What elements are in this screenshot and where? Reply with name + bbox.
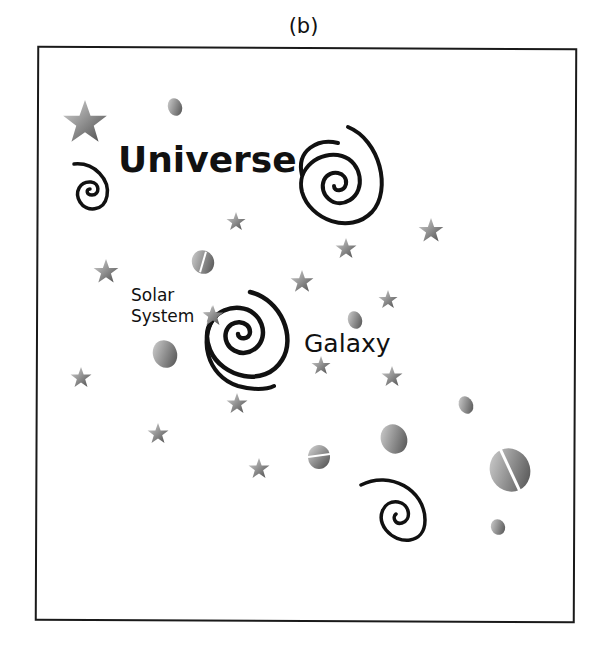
- star-icon: [291, 270, 314, 292]
- spiral-icon: [361, 480, 425, 540]
- universe-label: Universe: [118, 139, 297, 180]
- star-icon: [312, 356, 331, 374]
- planet-icon: [456, 394, 476, 416]
- star-icon: [71, 367, 92, 387]
- planet-icon: [488, 517, 507, 537]
- planet-icon: [308, 445, 330, 469]
- solar-system-label-line1: Solar: [131, 285, 174, 305]
- planet-icon: [165, 96, 184, 118]
- spiral-icon: [301, 127, 382, 223]
- star-icon: [148, 423, 169, 443]
- star-icon: [63, 100, 107, 142]
- star-icon: [419, 218, 444, 242]
- planet-icon: [376, 420, 412, 458]
- planet-icon: [149, 337, 181, 372]
- universe-diagram: Universe Galaxy Solar System: [0, 0, 607, 665]
- star-icon: [379, 290, 398, 308]
- galaxy-spiral-icon: [207, 292, 287, 377]
- star-icon: [94, 259, 119, 283]
- star-icon: [382, 366, 403, 386]
- star-icon: [227, 212, 246, 230]
- solar-system-label-line2: System: [131, 306, 194, 326]
- galaxy-label: Galaxy: [304, 329, 391, 358]
- spiral-icon: [74, 164, 107, 209]
- planet-icon: [188, 246, 218, 277]
- star-icon: [249, 458, 270, 478]
- planet-icon: [482, 441, 538, 500]
- star-icon: [336, 238, 357, 258]
- star-icon: [227, 393, 248, 413]
- planet-icon: [345, 309, 364, 331]
